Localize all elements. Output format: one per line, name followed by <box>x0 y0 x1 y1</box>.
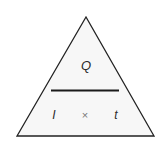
bottom-right-variable: t <box>114 109 117 121</box>
multiply-operator: × <box>82 110 88 121</box>
bottom-left-variable: I <box>52 109 55 121</box>
triangle-shape <box>0 0 165 147</box>
top-variable: Q <box>81 59 91 72</box>
